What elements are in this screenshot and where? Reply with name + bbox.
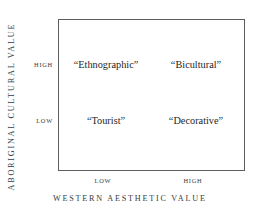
quadrant-label-decorative: “Decorative” (169, 115, 223, 126)
quadrant-matrix-figure: ABORIGINAL CULTURAL VALUE HIGH LOW “Ethn… (0, 0, 258, 215)
quadrant-label-ethnographic: “Ethnographic” (74, 59, 139, 70)
y-axis-tick-low: LOW (13, 117, 53, 124)
plot-area-box: “Ethnographic” “Bicultural” “Tourist” “D… (58, 19, 245, 171)
y-axis-title: ABORIGINAL CULTURAL VALUE (0, 0, 22, 215)
x-axis-title: WESTERN AESTHETIC VALUE (0, 194, 258, 203)
x-axis-tick-high: HIGH (184, 177, 203, 184)
y-axis-tick-high: HIGH (13, 61, 53, 68)
quadrant-label-tourist: “Tourist” (87, 115, 125, 126)
x-axis-tick-low: LOW (95, 177, 112, 184)
quadrant-label-bicultural: “Bicultural” (171, 59, 221, 70)
